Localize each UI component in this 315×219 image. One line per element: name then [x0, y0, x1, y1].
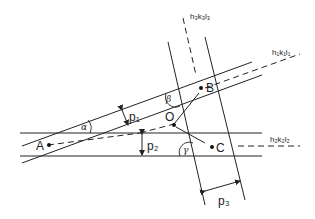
label-p3: p₃: [218, 194, 230, 208]
label-beta: β: [165, 94, 171, 104]
p1-arrow: [122, 110, 128, 125]
point-A: [47, 143, 51, 147]
p3-arrow: [205, 181, 240, 191]
band-h3k3l3: [168, 18, 245, 205]
label-O: O: [165, 110, 174, 124]
label-p2: p₂: [147, 139, 159, 153]
label-alpha: α: [81, 122, 87, 132]
label-B: B: [206, 81, 214, 95]
label-h3k3l3: h₃k₃l₃: [190, 12, 210, 21]
label-C: C: [216, 141, 225, 155]
label-gamma: γ: [183, 145, 189, 155]
point-C: [210, 145, 214, 149]
band-h1k1l1: [22, 54, 300, 163]
label-A: A: [36, 139, 44, 153]
band-h2k2l2: [20, 133, 300, 156]
label-h2k2l2: h₂k₂l₂: [270, 135, 290, 144]
crystal-zone-diagram: A B O C α β γ p₁ p₂ p₃ h₃k₃l₃ h₁k₁l₁ h₂k…: [0, 0, 315, 219]
point-B: [199, 86, 203, 90]
label-h1k1l1: h₁k₁l₁: [272, 48, 291, 57]
label-p1: p₁: [129, 110, 140, 124]
